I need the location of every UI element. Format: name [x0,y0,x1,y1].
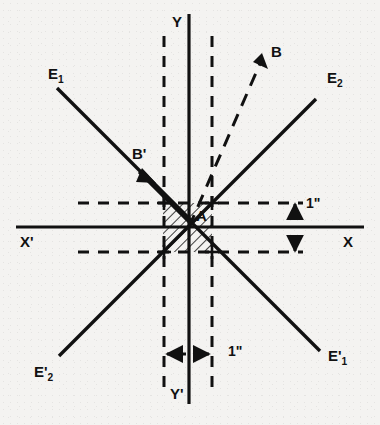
line-label-e1-prime: E'1 [328,348,347,367]
point-label-b: B [271,44,282,59]
dimension-label-vertical: 1" [306,196,320,210]
dimension-label-horizontal: 1" [228,344,242,358]
diagram-figure: X' X Y Y' E1 E2 E'1 E'2 A B B' 1" 1" [0,0,380,425]
vector-b-arrowhead [253,53,268,69]
point-label-a: A [196,208,207,223]
line-label-e2-prime: E'2 [34,364,53,383]
line-label-e1: E1 [48,66,64,85]
axis-label-x-positive: X [343,234,353,249]
point-label-b-prime: B' [132,146,146,161]
axis-label-y-negative: Y' [170,386,184,401]
axis-label-y-positive: Y [172,14,182,29]
axis-label-x-negative: X' [20,234,34,249]
line-label-e2: E2 [327,70,343,89]
diagram-canvas [0,0,380,425]
